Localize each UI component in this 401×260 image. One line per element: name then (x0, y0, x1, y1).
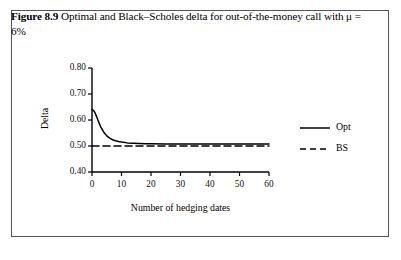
y-axis-title: Delta (39, 89, 50, 149)
x-axis-tick-label: 20 (135, 179, 167, 189)
legend-label-bs: BS (336, 142, 348, 153)
series-line-opt (92, 110, 269, 144)
y-axis-tick-label: 0.50 (58, 140, 86, 150)
x-axis-tick-label: 50 (224, 179, 256, 189)
x-axis-tick-label: 30 (165, 179, 197, 189)
chart-plot-area: 0.400.500.600.700.800102030405060DeltaNu… (0, 0, 378, 227)
y-axis-tick-label: 0.80 (58, 62, 86, 72)
y-axis-tick-label: 0.60 (58, 114, 86, 124)
delta-line-chart (0, 0, 378, 227)
legend-label-opt: Opt (336, 121, 351, 132)
x-axis-tick-label: 10 (106, 179, 138, 189)
x-axis-title: Number of hedging dates (52, 202, 309, 213)
x-axis-tick-label: 60 (253, 179, 285, 189)
y-axis-tick-label: 0.70 (58, 88, 86, 98)
x-axis-tick-label: 40 (194, 179, 226, 189)
y-axis-tick-label: 0.40 (58, 166, 86, 176)
x-axis-tick-label: 0 (76, 179, 108, 189)
